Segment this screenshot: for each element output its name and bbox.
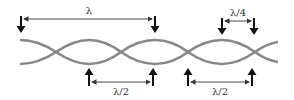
up-arrow-icon (149, 68, 158, 86)
up-arrow-icon (248, 68, 257, 86)
up-arrow-icon (85, 68, 94, 86)
up-arrow-icon (184, 68, 193, 86)
lambda-dimension: λ (24, 5, 152, 19)
lambda-half-dimension-2: λ/2 (191, 82, 249, 97)
lambda-quarter-dimension: λ/4 (225, 7, 251, 21)
lambda-quarter-label: λ/4 (230, 7, 246, 18)
lambda-label: λ (86, 5, 93, 16)
lambda-half-dimension-1: λ/2 (92, 82, 150, 97)
lambda-half-label: λ/2 (212, 86, 228, 97)
standing-wave-diagram: λ λ/4 λ/2 λ/2 (0, 0, 294, 100)
bottom-up-arrows (85, 68, 257, 86)
waves (20, 40, 278, 64)
lambda-half-label: λ/2 (113, 86, 129, 97)
